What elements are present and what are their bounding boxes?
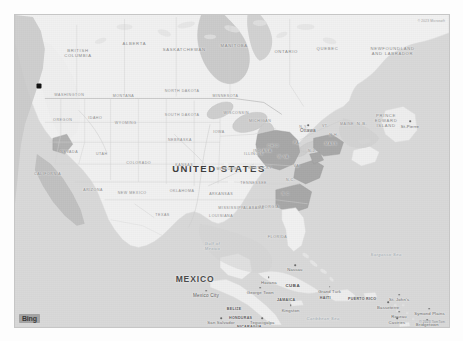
map-screenshot: UNITED STATESMEXICOCUBAHAITIJAMAICAPUERT… [0,0,463,341]
point-marker[interactable] [37,83,42,88]
attribution-microsoft: © 2023 Microsoft [418,19,445,23]
attribution-tomtom: © 2023 TomTom [419,320,445,324]
map-viewport[interactable]: UNITED STATESMEXICOCUBAHAITIJAMAICAPUERT… [14,14,450,328]
bing-logo[interactable]: Bing [19,314,40,323]
basemap-geometry [15,15,449,327]
bing-wordmark: Bing [22,315,37,322]
